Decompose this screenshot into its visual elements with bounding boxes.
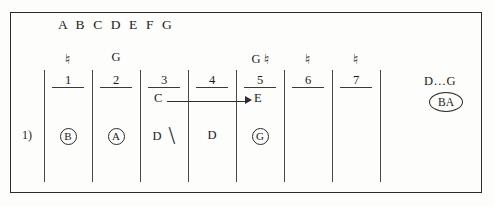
column-4-number-text: 4 (196, 74, 228, 86)
column-divider-3 (188, 70, 189, 182)
column-2-entry: A (92, 128, 140, 145)
column-1-number-text: 1 (52, 74, 84, 86)
column-3-number: 3 (148, 74, 180, 88)
column-1-entry: B (44, 128, 92, 145)
column-5-number-text: 5 (244, 74, 276, 86)
natural-sign-icon: ♮ (352, 51, 359, 67)
circled-letter: G (252, 128, 269, 145)
slanted-mark-icon: ╲ (166, 127, 178, 143)
column-divider-4 (236, 70, 237, 182)
index-label: 1) (22, 128, 32, 143)
natural-sign-icon: ♮ (263, 51, 270, 67)
column-divider-7 (380, 70, 381, 182)
column-4-entry-letter: D (207, 128, 216, 142)
column-5-symbol-letter: G (251, 52, 260, 66)
column-2-number-text: 2 (100, 74, 132, 86)
arrow-shaft (167, 101, 245, 102)
ellipse-tag: BA (429, 92, 463, 112)
column-3-underline (148, 87, 180, 88)
arrow-source-letter: C (154, 91, 162, 106)
column-7-number-text: 7 (340, 74, 372, 86)
natural-sign-icon: ♮ (64, 51, 71, 67)
column-divider-5 (284, 70, 285, 182)
column-divider-0 (44, 70, 45, 182)
range-annotation: D…G (424, 74, 456, 89)
column-3-entry-letter: D (153, 129, 162, 143)
column-divider-6 (332, 70, 333, 182)
figure-canvas: A B C D E F G 1) ♮ 1 B G 2 A 3 C D╲ 4 (0, 0, 494, 207)
column-divider-2 (140, 70, 141, 182)
column-6-underline (292, 87, 324, 88)
column-5-underline (244, 87, 276, 88)
column-2-symbol: G (92, 50, 140, 65)
column-6-number: 6 (292, 74, 324, 88)
circled-letter: A (108, 128, 125, 145)
column-2-underline (100, 87, 132, 88)
circled-letter: B (60, 128, 77, 145)
column-divider-1 (92, 70, 93, 182)
arrow-target-letter: E (254, 91, 262, 106)
column-7-number: 7 (340, 74, 372, 88)
column-2-number: 2 (100, 74, 132, 88)
column-6-symbol: ♮ (284, 50, 332, 67)
column-1-underline (52, 87, 84, 88)
column-7-underline (340, 87, 372, 88)
column-3-number-text: 3 (148, 74, 180, 86)
column-3-entry: D╲ (140, 128, 188, 144)
column-5-number: 5 (244, 74, 276, 88)
column-7-symbol: ♮ (332, 50, 380, 67)
column-6-number-text: 6 (292, 74, 324, 86)
column-4-entry: D (188, 128, 236, 143)
column-1-symbol: ♮ (44, 50, 92, 67)
column-5-entry: G (236, 128, 284, 145)
column-4-number: 4 (196, 74, 228, 88)
natural-sign-icon: ♮ (304, 51, 311, 67)
header-letter-sequence: A B C D E F G (58, 17, 174, 33)
column-5-symbol: G ♮ (236, 50, 284, 67)
column-1-number: 1 (52, 74, 84, 88)
column-2-symbol-letter: G (111, 50, 120, 64)
arrow-head-icon (245, 96, 252, 104)
column-4-underline (196, 87, 228, 88)
